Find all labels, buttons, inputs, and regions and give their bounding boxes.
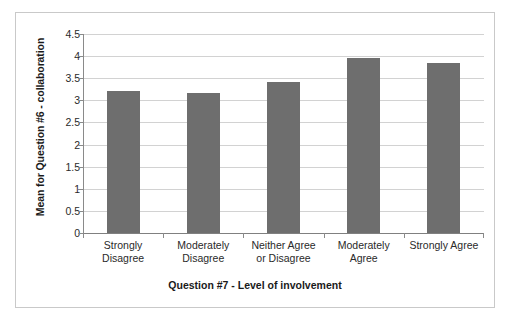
x-axis-tick-label: ModeratelyDisagree [163,239,243,265]
x-axis-tick-label-line: or Disagree [243,252,323,265]
x-axis-tick-label-line: Strongly [83,239,163,252]
bar [267,82,300,233]
bar [427,63,460,233]
x-axis-tick-label-line: Disagree [83,252,163,265]
x-axis-tick-marks [83,233,484,238]
x-axis-tick-mark [324,233,325,238]
x-axis-title: Question #7 - Level of involvement [16,279,494,291]
bar-series [83,34,484,233]
x-axis-tick-label: Strongly Agree [404,239,484,252]
x-axis-tick-mark [404,233,405,238]
x-axis-tick-label-line: Agree [324,252,404,265]
x-axis-tick-label-line: Strongly Agree [404,239,484,252]
x-axis-tick-label-line: Moderately [324,239,404,252]
chart-frame: Mean for Question #6 - collaboration 00.… [15,12,495,308]
x-axis-tick-label-line: Disagree [163,252,243,265]
x-axis-tick-label: StronglyDisagree [83,239,163,265]
x-axis-tick-label: Neither Agreeor Disagree [243,239,323,265]
bar [107,91,140,233]
x-axis-tick-labels: StronglyDisagreeModeratelyDisagreeNeithe… [83,239,484,279]
bar [187,93,220,233]
x-axis-tick-mark [483,233,484,238]
x-axis-tick-mark [163,233,164,238]
x-axis-tick-mark [243,233,244,238]
x-axis-tick-mark [83,233,84,238]
plot-area [83,34,484,233]
x-axis-tick-label-line: Neither Agree [243,239,323,252]
bar [347,58,380,233]
x-axis-tick-label: ModeratelyAgree [324,239,404,265]
x-axis-tick-label-line: Moderately [163,239,243,252]
